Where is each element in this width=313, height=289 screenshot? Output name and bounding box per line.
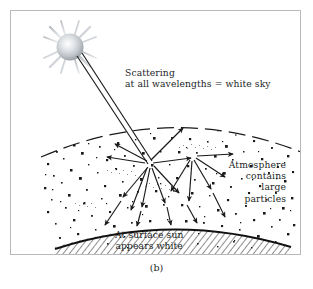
figure-caption: (b) [0, 262, 313, 273]
incoming-sunlight-beam [77, 53, 152, 164]
ground-hatching [41, 209, 300, 254]
sun [42, 19, 98, 75]
haze-stipple [75, 144, 216, 208]
sun-disk [57, 34, 84, 61]
figure-frame: Scattering at all wavelengths = white sk… [10, 10, 301, 255]
scattered-light-arrows [105, 128, 233, 226]
large-particle-field [44, 110, 295, 243]
ground-surface-arc [41, 209, 300, 254]
atmosphere-boundary-arc [41, 128, 300, 157]
scattering-diagram [11, 11, 300, 254]
figure-page: Scattering at all wavelengths = white sk… [0, 0, 313, 289]
